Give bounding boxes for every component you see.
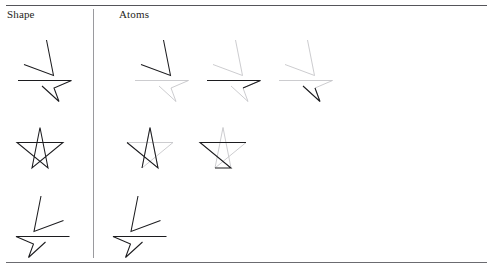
shape-part-upper-triangle bbox=[285, 40, 315, 76]
shape-part-upper-triangle bbox=[34, 196, 64, 232]
shape-part-lower-dart bbox=[113, 237, 167, 258]
shape-part-upper-triangle bbox=[141, 40, 171, 76]
shape-part-lower-dart-rest bbox=[279, 81, 333, 102]
shape-part-lower-dart-top-edge bbox=[207, 81, 261, 89]
shape-part-lower-dart bbox=[18, 81, 72, 102]
table-bottom-rule bbox=[6, 262, 487, 263]
atom-cell-row-1-atom-dart-lower-spike bbox=[277, 38, 337, 106]
atom-cell-row-2-atom-star-left-chevron bbox=[199, 126, 249, 172]
shape-cell-row-1-four-point-dart-star-right bbox=[16, 38, 76, 106]
shape-part-lower-dart-spike-edge bbox=[303, 86, 320, 102]
shape-cell-row-2-five-point-pentagram-star bbox=[16, 126, 66, 172]
shape-cell-row-3-four-point-dart-star-left-mirrored bbox=[16, 194, 74, 262]
column-divider bbox=[93, 9, 94, 258]
shape-atoms-figure: Shape Atoms bbox=[0, 0, 493, 275]
shape-part-upper-triangle bbox=[213, 40, 243, 76]
shape-part-upper-triangle bbox=[24, 40, 54, 76]
column-header-atoms: Atoms bbox=[119, 8, 149, 21]
shape-part-upper-triangle bbox=[131, 196, 161, 232]
shape-part-lower-dart bbox=[16, 237, 70, 258]
column-header-shape: Shape bbox=[7, 8, 35, 21]
shape-part-star-left-chevron bbox=[200, 143, 246, 169]
atom-cell-row-2-atom-star-right-chevron bbox=[126, 126, 176, 172]
shape-part-pentagram bbox=[17, 128, 63, 169]
atom-cell-row-1-atom-dart-top-edge bbox=[205, 38, 265, 106]
atom-cell-row-1-atom-upper-triangle bbox=[133, 38, 193, 106]
table-top-rule bbox=[6, 5, 487, 6]
atom-cell-row-3-atom-whole-shape bbox=[113, 194, 171, 262]
shape-part-star-right-chevron bbox=[127, 128, 158, 169]
shape-part-lower-dart bbox=[135, 81, 189, 102]
